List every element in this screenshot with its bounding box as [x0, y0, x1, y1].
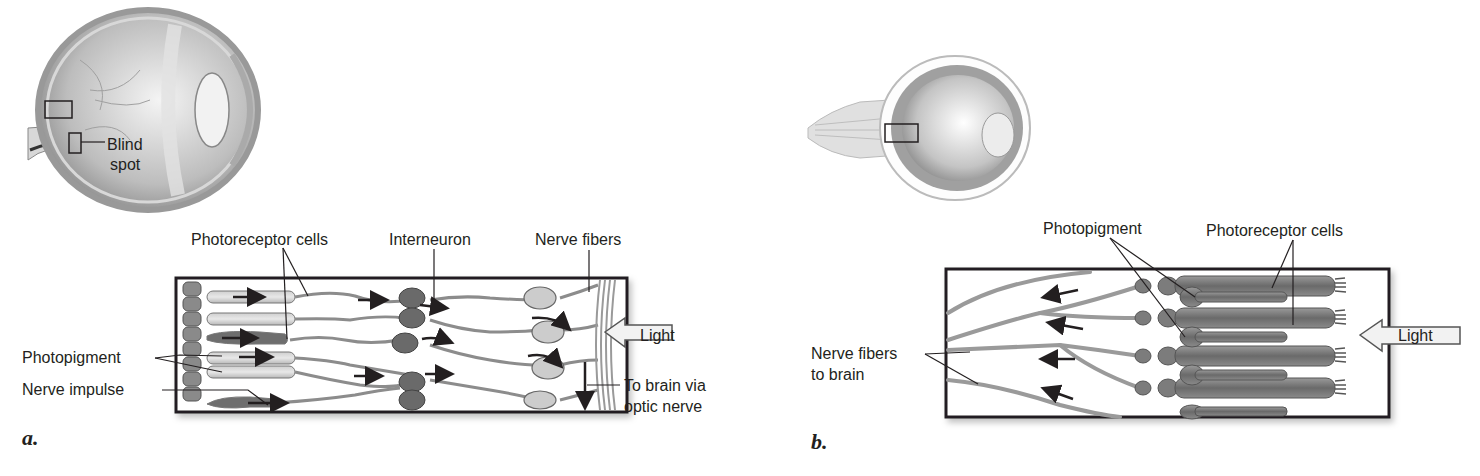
label-photoreceptor-cells-b: Photoreceptor cells: [1206, 221, 1343, 240]
label-nerve-fibers-b-line2: to brain: [811, 365, 864, 384]
label-photoreceptor-cells-a: Photoreceptor cells: [191, 230, 328, 249]
eye-illustration-b: [808, 56, 1030, 200]
label-nerve-fibers-b-line1: Nerve fibers: [811, 344, 897, 363]
label-photopigment-b: Photopigment: [1043, 219, 1142, 238]
label-light-b: Light: [1398, 326, 1433, 345]
retina-box-a: [155, 248, 672, 412]
label-nerve-fibers-a: Nerve fibers: [535, 230, 621, 249]
label-interneuron: Interneuron: [389, 230, 471, 249]
retina-box-b: [925, 238, 1460, 419]
panel-letter-a: a.: [22, 425, 39, 451]
label-nerve-impulse: Nerve impulse: [22, 380, 124, 399]
label-light-a: Light: [640, 326, 675, 345]
label-to-brain-line2: optic nerve: [624, 397, 702, 416]
eye-illustration-a: [28, 10, 258, 210]
panel-letter-b: b.: [811, 429, 828, 455]
label-to-brain-line1: To brain via: [624, 376, 706, 395]
label-blind-spot-line1: Blind: [107, 135, 143, 154]
label-blind-spot-line2: spot: [110, 155, 140, 174]
label-photopigment-a: Photopigment: [22, 348, 121, 367]
